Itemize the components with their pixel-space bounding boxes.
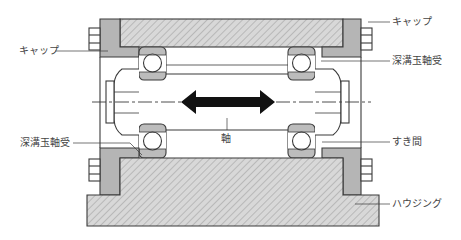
bolt-top-left [89, 28, 100, 50]
label-shaft: 軸 [221, 133, 231, 145]
housing [87, 158, 379, 226]
label-cap-left: キャップ [19, 45, 59, 57]
label-bearing-right: 深溝玉軸受 [392, 55, 442, 67]
right-bearing-top [288, 47, 315, 80]
label-housing: ハウジング [392, 198, 442, 210]
upper-housing-block [120, 19, 343, 47]
left-bearing-bottom [139, 124, 166, 158]
axial-motion-arrow [181, 90, 275, 114]
bolt-bottom-left [89, 159, 100, 181]
label-bearing-left: 深溝玉軸受 [20, 137, 70, 149]
label-clearance: すき間 [392, 136, 422, 148]
bolt-top-right [361, 28, 372, 50]
left-bearing-top [139, 47, 166, 80]
right-bearing-bottom [288, 124, 315, 158]
bolt-bottom-right [361, 159, 372, 181]
label-cap-right: キャップ [392, 16, 432, 28]
